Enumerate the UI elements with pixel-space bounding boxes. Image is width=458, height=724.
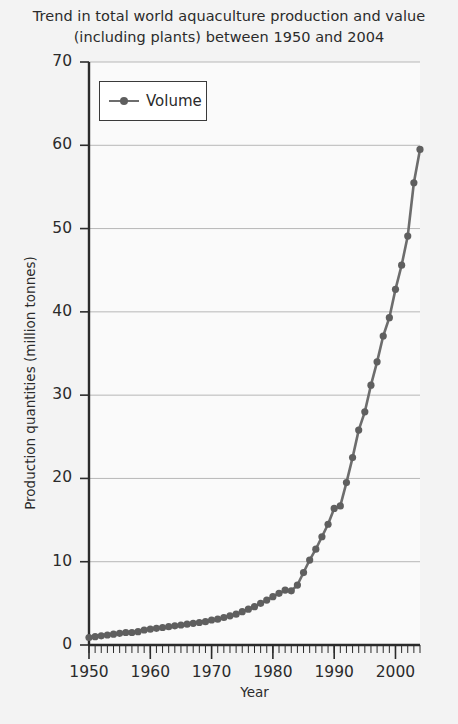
x-tick-label: 1990	[304, 663, 364, 681]
x-tick-label: 1960	[120, 663, 180, 681]
y-axis-major-ticks	[80, 62, 89, 645]
y-tick-label: 10	[32, 552, 72, 570]
y-tick-label: 30	[32, 385, 72, 403]
y-tick-label: 60	[32, 135, 72, 153]
x-tick-label: 1950	[59, 663, 119, 681]
chart-figure: Trend in total world aquaculture product…	[0, 0, 458, 724]
plot-area	[0, 0, 458, 724]
legend-line-marker-icon	[109, 95, 139, 107]
y-tick-label: 0	[32, 635, 72, 653]
x-tick-label: 1980	[243, 663, 303, 681]
x-axis-title: Year	[89, 684, 420, 700]
y-axis-title: Production quantities (million tonnes)	[22, 203, 38, 563]
y-tick-label: 40	[32, 302, 72, 320]
y-tick-label: 50	[32, 219, 72, 237]
legend-item-label: Volume	[146, 92, 202, 110]
plot-background	[89, 62, 420, 645]
y-tick-label: 70	[32, 52, 72, 70]
chart-svg	[0, 0, 458, 724]
x-tick-label: 1970	[182, 663, 242, 681]
legend-item-volume[interactable]: Volume	[100, 82, 206, 120]
x-tick-label: 2000	[365, 663, 425, 681]
y-tick-label: 20	[32, 468, 72, 486]
chart-legend: Volume	[99, 81, 207, 121]
